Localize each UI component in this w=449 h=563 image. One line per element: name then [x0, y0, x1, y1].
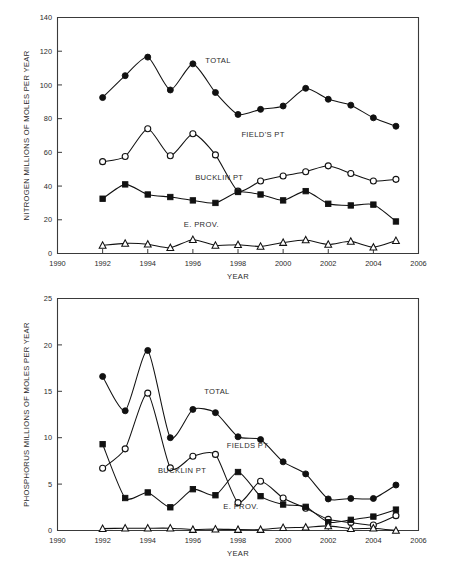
data-point-open-triangle — [393, 237, 400, 243]
data-point-filled-square — [348, 203, 353, 208]
data-point-filled-square — [371, 514, 376, 519]
data-point-filled-circle — [100, 373, 106, 379]
data-point-filled-circle — [303, 85, 309, 91]
series-bucklin-pt — [100, 441, 399, 524]
data-point-filled-circle — [280, 103, 286, 109]
x-axis-tick-label: 1996 — [185, 259, 201, 268]
series-label: TOTAL — [204, 387, 230, 396]
data-point-filled-square — [393, 219, 398, 224]
y-axis-tick-label: 120 — [40, 47, 52, 56]
y-axis-tick-label: 0 — [48, 249, 52, 258]
data-point-open-circle — [258, 178, 264, 184]
data-point-filled-circle — [167, 87, 173, 93]
series-label: E. PROV. — [223, 502, 258, 511]
data-point-filled-square — [168, 194, 173, 199]
data-point-open-circle — [393, 513, 399, 519]
nitrogen-chart-panel: 0204060801001201401990199219941996199820… — [0, 0, 449, 281]
data-point-open-circle — [280, 173, 286, 179]
y-axis-tick-label: 0 — [48, 526, 52, 535]
x-axis-tick-label: 1990 — [49, 536, 65, 545]
data-point-filled-square — [235, 189, 240, 194]
y-axis-tick-label: 15 — [44, 387, 52, 396]
x-axis-tick-label: 2002 — [320, 259, 336, 268]
plot-frame — [58, 299, 419, 531]
data-point-filled-circle — [325, 496, 331, 502]
data-point-filled-square — [303, 504, 308, 509]
phosphorus-chart-svg: 0510152025199019921994199619982000200220… — [0, 282, 449, 563]
data-point-filled-square — [393, 507, 398, 512]
data-point-filled-circle — [167, 435, 173, 441]
x-axis-title: YEAR — [227, 272, 249, 281]
data-point-filled-square — [145, 192, 150, 197]
y-axis-tick-label: 60 — [44, 148, 52, 157]
series-line — [103, 444, 396, 522]
data-point-filled-circle — [190, 61, 196, 67]
data-point-filled-square — [168, 505, 173, 510]
plot-frame — [58, 18, 419, 254]
series-label: FIELD'S PT — [241, 130, 284, 139]
data-point-filled-square — [100, 441, 105, 446]
data-point-open-circle — [122, 154, 128, 160]
series-label: E. PROV. — [184, 220, 219, 229]
series-line — [103, 350, 396, 500]
series-total — [100, 347, 399, 501]
data-point-filled-square — [371, 202, 376, 207]
y-axis-tick-label: 40 — [44, 182, 52, 191]
data-point-filled-circle — [370, 115, 376, 121]
data-point-filled-square — [280, 198, 285, 203]
y-axis-title: PHOSPHORUS MILLIONS OF MOLES PER YEAR — [22, 322, 31, 507]
data-point-filled-square — [213, 200, 218, 205]
nitrogen-chart-svg: 0204060801001201401990199219941996199820… — [0, 0, 449, 281]
data-point-open-circle — [280, 495, 286, 501]
data-point-open-circle — [212, 451, 218, 457]
x-axis-tick-label: 1998 — [230, 536, 246, 545]
data-point-filled-circle — [348, 495, 354, 501]
data-point-filled-circle — [393, 482, 399, 488]
series-line — [103, 57, 396, 126]
data-point-open-circle — [303, 169, 309, 175]
x-axis-tick-label: 1994 — [140, 259, 156, 268]
data-point-filled-circle — [370, 495, 376, 501]
data-point-filled-circle — [280, 459, 286, 465]
data-point-open-circle — [393, 176, 399, 182]
y-axis-tick-label: 20 — [44, 341, 52, 350]
data-point-filled-square — [258, 192, 263, 197]
data-point-filled-circle — [235, 111, 241, 117]
data-point-open-circle — [370, 178, 376, 184]
x-axis-title: YEAR — [227, 549, 249, 558]
x-axis-tick-label: 2002 — [320, 536, 336, 545]
data-point-filled-circle — [235, 434, 241, 440]
x-axis-tick-label: 2004 — [365, 536, 381, 545]
data-point-open-circle — [190, 453, 196, 459]
data-point-filled-circle — [100, 95, 106, 101]
phosphorus-chart-panel: 0510152025199019921994199619982000200220… — [0, 282, 449, 563]
series-e-prov — [99, 236, 399, 250]
data-point-filled-square — [235, 469, 240, 474]
data-point-filled-square — [280, 502, 285, 507]
y-axis-tick-label: 20 — [44, 215, 52, 224]
data-point-filled-circle — [348, 102, 354, 108]
data-point-open-circle — [348, 170, 354, 176]
data-point-filled-square — [190, 198, 195, 203]
data-point-filled-circle — [393, 123, 399, 129]
data-point-filled-circle — [212, 90, 218, 96]
y-axis-tick-label: 140 — [40, 13, 52, 22]
data-point-open-circle — [122, 446, 128, 452]
series-total — [100, 54, 399, 129]
x-axis-tick-label: 1996 — [185, 536, 201, 545]
x-axis-tick-label: 2000 — [275, 259, 291, 268]
y-axis-tick-label: 80 — [44, 114, 52, 123]
data-point-open-circle — [190, 131, 196, 137]
data-point-open-circle — [100, 465, 106, 471]
data-point-filled-square — [326, 201, 331, 206]
x-axis-tick-label: 2006 — [410, 259, 426, 268]
data-point-open-circle — [167, 153, 173, 159]
x-axis-tick-label: 2006 — [410, 536, 426, 545]
data-point-open-circle — [212, 152, 218, 158]
series-e-prov — [99, 522, 399, 533]
y-axis-tick-label: 100 — [40, 81, 52, 90]
data-point-filled-square — [190, 487, 195, 492]
x-axis-tick-label: 2004 — [365, 259, 381, 268]
data-point-filled-square — [348, 517, 353, 522]
series-label: BUCKLIN PT — [195, 173, 243, 182]
